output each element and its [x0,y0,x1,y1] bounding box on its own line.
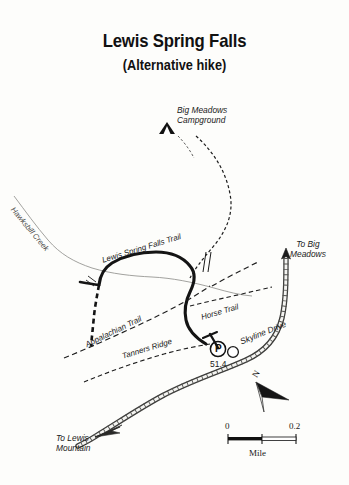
tanners-ridge-line [84,344,210,382]
campground-leader-line [178,136,194,158]
skyline-drive-fill [78,258,286,446]
scale-max-label: 0.2 [289,421,300,431]
north-arrow [256,382,289,412]
scale-bar [228,434,296,444]
falls-trail-dashed-segment [91,285,99,346]
skyline-drive-casing [78,258,286,446]
trail-junction-hatch [203,252,211,272]
appalachian-trail-northeast-segment [212,262,258,286]
horse-trail-line [190,287,272,306]
creek-line [14,196,252,296]
scale-unit-label: Mile [249,448,266,458]
tent-icon [159,122,175,134]
scale-min-label: 0 [225,421,230,431]
map-canvas [0,0,349,485]
milepost-label: 51.4 [210,359,227,369]
map-figure: Lewis Spring Falls (Alternative hike) [0,0,349,485]
pulloff-marker-circle [228,347,239,358]
skyline-drive-hatching [78,258,286,446]
parking-symbol: P [215,343,222,354]
lewis-spring-falls-trail-line [99,252,206,344]
